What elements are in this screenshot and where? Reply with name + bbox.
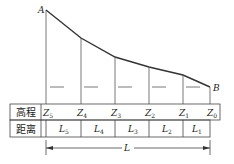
profile-curve (46, 10, 210, 87)
station-lines (46, 10, 210, 104)
point-b-label: B (212, 83, 220, 93)
svg-text:Z3: Z3 (110, 108, 121, 119)
svg-text:Z0: Z0 (206, 108, 217, 119)
svg-text:Z4: Z4 (76, 108, 87, 119)
arrow-right-icon (203, 146, 210, 150)
svg-text:L2: L2 (161, 124, 172, 135)
arrow-left-icon (46, 146, 53, 150)
svg-text:Z1: Z1 (178, 108, 189, 119)
svg-text:Z5: Z5 (42, 108, 53, 119)
distance-row-label: 距离 (16, 123, 36, 135)
total-length-label: L (123, 143, 130, 153)
distance-labels: L5 L4 L3 L2 L1 (58, 124, 202, 135)
svg-text:Z2: Z2 (144, 108, 155, 119)
svg-text:L3: L3 (127, 124, 138, 135)
point-a-label: A (37, 5, 45, 15)
svg-text:L5: L5 (58, 124, 69, 135)
svg-text:L4: L4 (93, 124, 104, 135)
profile-diagram: A B 高程 距离 Z5 Z4 Z3 Z2 Z1 Z0 L5 L4 L3 L2 … (0, 0, 234, 164)
elevation-row-label: 高程 (16, 106, 36, 118)
elevation-labels: Z5 Z4 Z3 Z2 Z1 Z0 (42, 108, 217, 119)
svg-text:L1: L1 (191, 124, 202, 135)
